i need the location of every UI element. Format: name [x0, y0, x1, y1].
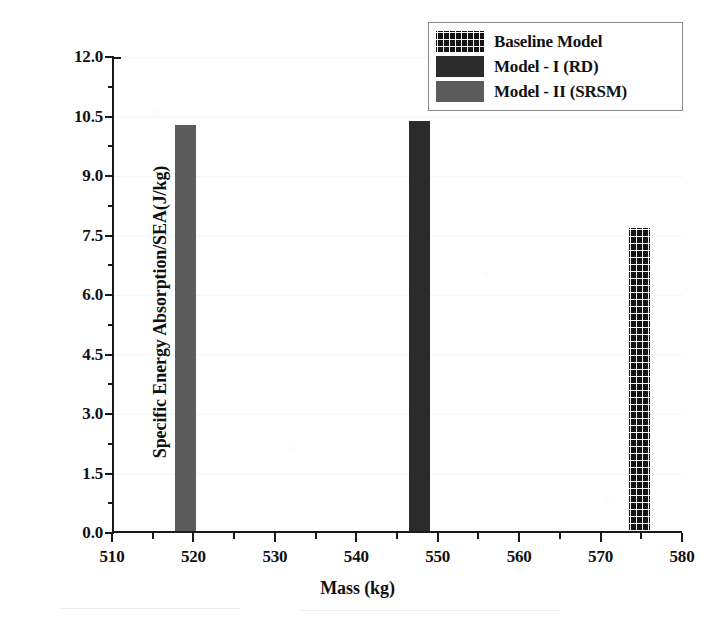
x-tick-label: 540 — [344, 547, 369, 567]
x-tick-minor — [233, 533, 235, 539]
x-tick-major — [111, 533, 113, 542]
bar-model-ii-srsm — [175, 125, 196, 531]
x-tick-major — [437, 533, 439, 542]
x-tick-major — [192, 533, 194, 542]
y-tick-label: 10.5 — [74, 107, 103, 127]
y-tick-label: 4.5 — [82, 345, 103, 365]
y-tick-label: 12.0 — [74, 47, 103, 67]
legend-swatch-crosshatch-icon — [436, 31, 484, 52]
y-tick-minor — [108, 86, 114, 88]
y-tick-minor — [108, 205, 114, 207]
legend-item: Model - II (SRSM) — [436, 79, 674, 104]
y-axis-title: Specific Energy Absorption/SEA(J/kg) — [150, 165, 171, 457]
x-tick-minor — [477, 533, 479, 539]
y-tick-minor — [108, 502, 114, 504]
chart-legend: Baseline ModelModel - I (RD)Model - II (… — [428, 22, 683, 111]
y-tick-minor — [108, 145, 114, 147]
scan-artifact — [300, 610, 560, 611]
x-tick-label: 530 — [262, 547, 287, 567]
y-tick-label: 9.0 — [82, 166, 103, 186]
legend-label: Model - I (RD) — [494, 57, 598, 77]
x-tick-major — [600, 533, 602, 542]
y-axis-top-stub — [112, 57, 121, 59]
x-tick-minor — [315, 533, 317, 539]
x-tick-major — [681, 533, 683, 542]
y-tick-major — [105, 413, 114, 415]
x-tick-major — [355, 533, 357, 542]
y-tick-major — [105, 235, 114, 237]
legend-swatch-solid-gray-icon — [436, 81, 484, 102]
y-tick-major — [105, 473, 114, 475]
y-tick-major — [105, 175, 114, 177]
y-tick-label: 6.0 — [82, 285, 103, 305]
scan-artifact — [60, 608, 240, 609]
bar-baseline-model — [629, 228, 650, 531]
x-tick-label: 570 — [588, 547, 613, 567]
chart-figure: 0.01.53.04.56.07.59.010.512.0 5105205305… — [0, 0, 715, 623]
legend-item: Model - I (RD) — [436, 54, 674, 79]
plot-area: 0.01.53.04.56.07.59.010.512.0 — [112, 57, 682, 533]
x-tick-label: 550 — [425, 547, 450, 567]
x-tick-minor — [559, 533, 561, 539]
x-tick-label: 560 — [507, 547, 532, 567]
y-tick-major — [105, 354, 114, 356]
y-tick-label: 1.5 — [82, 464, 103, 484]
y-tick-minor — [108, 264, 114, 266]
x-axis-title: Mass (kg) — [0, 578, 715, 599]
y-tick-label: 0.0 — [82, 523, 103, 543]
x-tick-minor — [152, 533, 154, 539]
legend-label: Model - II (SRSM) — [494, 82, 627, 102]
y-tick-minor — [108, 383, 114, 385]
x-tick-major — [274, 533, 276, 542]
legend-label: Baseline Model — [494, 32, 602, 52]
y-tick-label: 7.5 — [82, 226, 103, 246]
y-tick-label: 3.0 — [82, 404, 103, 424]
y-tick-major — [105, 294, 114, 296]
legend-item: Baseline Model — [436, 29, 674, 54]
legend-swatch-solid-dark-icon — [436, 56, 484, 77]
y-tick-minor — [108, 324, 114, 326]
x-tick-label: 580 — [670, 547, 695, 567]
x-tick-label: 510 — [100, 547, 125, 567]
x-tick-major — [518, 533, 520, 542]
y-tick-minor — [108, 443, 114, 445]
x-tick-minor — [640, 533, 642, 539]
x-tick-label: 520 — [181, 547, 206, 567]
y-tick-major — [105, 116, 114, 118]
x-tick-minor — [396, 533, 398, 539]
bar-model-i-rd — [409, 121, 430, 531]
